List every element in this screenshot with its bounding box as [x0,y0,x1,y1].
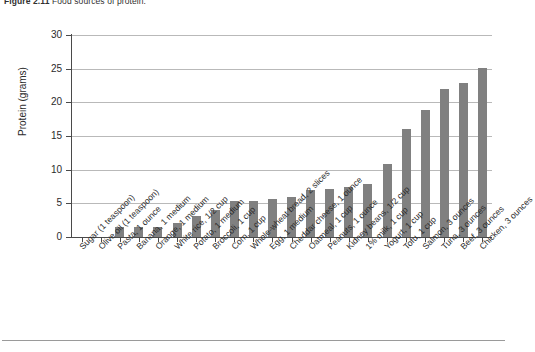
bottom-divider [2,340,505,341]
